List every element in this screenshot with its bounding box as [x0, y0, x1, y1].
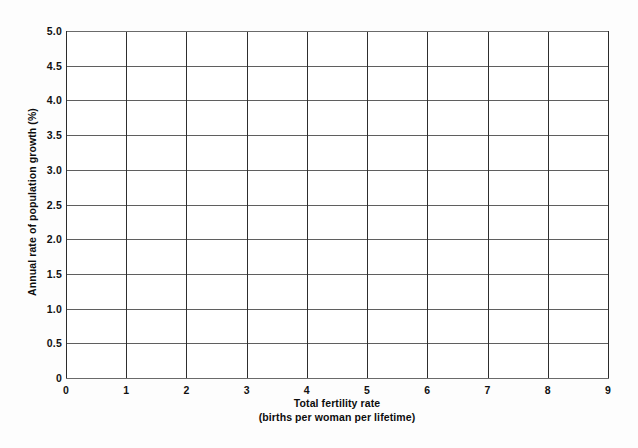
y-tick-label: 5.0	[20, 25, 62, 37]
x-tick-label: 0	[63, 384, 69, 396]
x-axis-title: Total fertility rate	[66, 396, 608, 410]
gridline-horizontal	[66, 100, 608, 101]
plot-frame-right	[608, 31, 609, 379]
x-tick-label: 4	[304, 384, 310, 396]
x-tick-label: 9	[605, 384, 611, 396]
gridline-horizontal	[66, 343, 608, 344]
x-tick-label: 2	[183, 384, 189, 396]
gridline-vertical	[548, 31, 549, 378]
gridline-vertical	[427, 31, 428, 378]
gridline-horizontal	[66, 274, 608, 275]
gridline-horizontal	[66, 239, 608, 240]
gridline-horizontal	[66, 66, 608, 67]
y-axis-line	[66, 31, 67, 379]
x-axis-line	[66, 378, 609, 379]
y-axis-title: Annual rate of population growth (%)	[26, 42, 38, 362]
x-tick-label: 1	[123, 384, 129, 396]
x-axis-subtitle: (births per woman per lifetime)	[66, 410, 608, 424]
gridline-vertical	[367, 31, 368, 378]
x-tick-label: 3	[244, 384, 250, 396]
chart-container: 00.51.01.52.02.53.03.54.04.55.0 Annual r…	[0, 0, 638, 448]
plot-area	[66, 31, 608, 378]
gridline-vertical	[488, 31, 489, 378]
x-tick-label: 7	[485, 384, 491, 396]
gridline-vertical	[307, 31, 308, 378]
gridline-horizontal	[66, 135, 608, 136]
x-tick-label: 8	[545, 384, 551, 396]
y-tick-label: 0	[20, 372, 62, 384]
x-tick-label: 5	[364, 384, 370, 396]
gridline-horizontal	[66, 205, 608, 206]
gridline-horizontal	[66, 309, 608, 310]
plot-frame-top	[66, 31, 609, 32]
y-axis-tick-labels: 00.51.01.52.02.53.03.54.04.55.0	[14, 0, 62, 448]
gridline-horizontal	[66, 170, 608, 171]
gridline-vertical	[126, 31, 127, 378]
x-tick-label: 6	[424, 384, 430, 396]
x-axis-title-block: Total fertility rate (births per woman p…	[66, 396, 608, 424]
gridline-vertical	[186, 31, 187, 378]
gridline-vertical	[247, 31, 248, 378]
